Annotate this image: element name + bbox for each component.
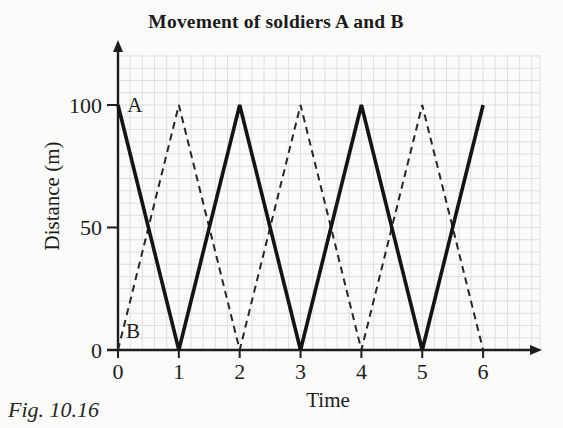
x-tick-label: 5 [417,359,428,384]
x-tick-label: 1 [173,359,184,384]
y-axis-title: Distance (m) [40,141,65,250]
y-tick-label: 50 [80,215,102,240]
y-axis-arrowhead [113,40,123,52]
y-tick-label: 100 [69,93,102,118]
y-tick-label: 0 [91,338,102,363]
series-label-A: A [127,93,143,117]
textbook-figure-page: Movement of soldiers A and B 05010001234… [0,0,563,428]
x-axis-title: Time [306,388,350,413]
figure-caption: Fig. 10.16 [8,397,99,423]
x-tick-label: 3 [295,359,306,384]
x-tick-label: 2 [234,359,245,384]
x-tick-label: 6 [478,359,489,384]
series-label-B: B [126,319,140,343]
x-tick-label: 0 [113,359,124,384]
x-tick-label: 4 [356,359,367,384]
chart-canvas: 0501000123456AB [0,0,563,428]
